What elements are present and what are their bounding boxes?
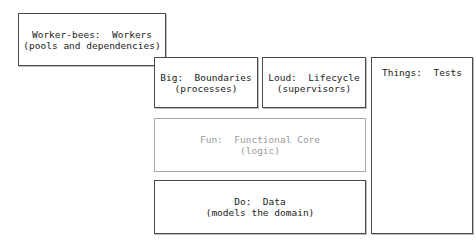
fun-subtitle: (logic) <box>240 145 280 156</box>
worker-bees-title: Worker-bees: Workers <box>32 29 152 40</box>
do-subtitle: (models the domain) <box>206 207 315 218</box>
things-title: Things: Tests <box>382 67 462 78</box>
fun-title: Fun: Functional Core <box>200 134 320 145</box>
do-title: Do: Data <box>234 196 285 207</box>
do-data-box: Do: Data (models the domain) <box>154 180 366 234</box>
big-title: Big: Boundaries <box>160 72 252 83</box>
fun-functional-core-box: Fun: Functional Core (logic) <box>154 118 366 172</box>
big-boundaries-box: Big: Boundaries (processes) <box>154 57 258 108</box>
worker-bees-box: Worker-bees: Workers (pools and dependen… <box>18 13 166 66</box>
things-tests-box: Things: Tests <box>371 57 473 234</box>
loud-lifecycle-box: Loud: Lifecycle (supervisors) <box>262 57 366 108</box>
big-subtitle: (processes) <box>175 83 238 94</box>
worker-bees-subtitle: (pools and dependencies) <box>23 40 160 51</box>
loud-subtitle: (supervisors) <box>277 83 351 94</box>
loud-title: Loud: Lifecycle <box>268 72 360 83</box>
